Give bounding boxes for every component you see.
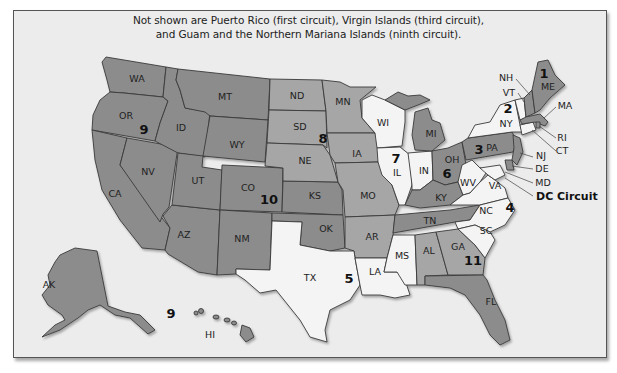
label-ma: MA xyxy=(558,100,573,111)
label-id: ID xyxy=(176,122,186,133)
leader-ct xyxy=(532,130,556,151)
leader-md xyxy=(505,172,533,183)
circuit-6-label: 6 xyxy=(442,166,451,181)
label-ak: AK xyxy=(43,279,56,290)
label-wv: WV xyxy=(460,177,476,188)
label-sd: SD xyxy=(293,121,306,132)
state-hi-island xyxy=(199,309,204,314)
label-la: LA xyxy=(369,266,382,277)
label-ar: AR xyxy=(365,231,378,242)
label-al: AL xyxy=(423,245,435,256)
label-mi: MI xyxy=(426,128,437,139)
label-nm: NM xyxy=(234,233,249,244)
label-il: IL xyxy=(393,167,402,178)
label-in: IN xyxy=(419,165,429,176)
leader-nh xyxy=(516,79,530,95)
label-ca: CA xyxy=(108,188,122,199)
label-de: DE xyxy=(535,163,548,174)
label-md: MD xyxy=(535,177,551,188)
leader-de xyxy=(512,166,533,169)
label-co: CO xyxy=(241,182,255,193)
label-ga: GA xyxy=(451,241,465,252)
leader-ma xyxy=(544,107,556,118)
circuit-9-label: 9 xyxy=(139,122,148,137)
state-hi-big xyxy=(240,325,254,342)
label-me: ME xyxy=(541,81,555,92)
circuit-1-label: 1 xyxy=(539,66,548,81)
label-ri: RI xyxy=(557,132,566,143)
label-ny: NY xyxy=(500,118,513,129)
label-az: AZ xyxy=(177,229,190,240)
state-az xyxy=(163,205,220,275)
state-fl xyxy=(425,275,510,345)
state-hi-island xyxy=(224,318,230,322)
state-de xyxy=(505,160,514,170)
circuit-map: WA OR CA NV ID MT WY UT AZ NM CO ND SD N… xyxy=(0,0,617,373)
state-hi-island xyxy=(232,321,237,325)
circuit-2-label: 2 xyxy=(503,101,512,116)
label-fl: FL xyxy=(486,296,497,307)
label-ut: UT xyxy=(192,175,205,186)
label-ct: CT xyxy=(556,145,569,156)
label-wy: WY xyxy=(229,139,244,150)
label-ne: NE xyxy=(298,155,311,166)
label-wi: WI xyxy=(377,117,389,128)
label-tx: TX xyxy=(303,272,317,283)
label-nh: NH xyxy=(499,72,513,83)
label-ok: OK xyxy=(319,223,333,234)
label-pa: PA xyxy=(486,142,498,153)
label-oh: OH xyxy=(445,154,460,165)
label-wa: WA xyxy=(129,73,145,84)
circuit-11-label: 11 xyxy=(464,253,482,268)
label-mn: MN xyxy=(335,96,350,107)
state-ny xyxy=(468,100,522,138)
label-mo: MO xyxy=(360,190,376,201)
label-vt: VT xyxy=(503,87,515,98)
state-nj xyxy=(512,135,523,165)
state-hi-island xyxy=(194,311,198,315)
label-mt: MT xyxy=(218,91,232,102)
circuit-7-label: 7 xyxy=(391,151,400,166)
label-ia: IA xyxy=(352,148,362,159)
circuit-9-pacific-label: 9 xyxy=(166,306,175,321)
circuit-3-label: 3 xyxy=(474,142,483,157)
label-nv: NV xyxy=(141,166,155,177)
leader-ri xyxy=(539,126,556,138)
circuit-10-label: 10 xyxy=(260,192,278,207)
circuit-5-label: 5 xyxy=(344,271,353,286)
label-tn: TN xyxy=(423,215,437,226)
label-nc: NC xyxy=(479,205,493,216)
label-or: OR xyxy=(119,110,133,121)
circuit-8-label: 8 xyxy=(318,131,327,146)
label-nd: ND xyxy=(290,90,304,101)
label-ks: KS xyxy=(309,190,321,201)
label-nj: NJ xyxy=(536,150,546,161)
label-ky: KY xyxy=(435,192,447,203)
leader-dc xyxy=(505,178,533,196)
state-ri xyxy=(536,122,540,128)
label-ms: MS xyxy=(395,250,409,261)
label-hi: HI xyxy=(205,329,215,340)
label-va: VA xyxy=(489,180,502,191)
state-ak xyxy=(42,248,155,337)
circuit-4-label: 4 xyxy=(505,200,514,215)
state-hi-island xyxy=(213,315,219,319)
label-sc: SC xyxy=(480,225,493,236)
dc-circuit-label: DC Circuit xyxy=(536,190,598,203)
